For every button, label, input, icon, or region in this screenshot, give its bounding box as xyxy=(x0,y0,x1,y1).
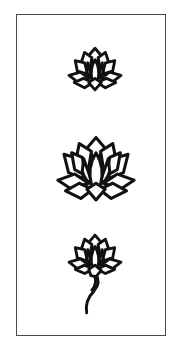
lotus-with-stem-icon xyxy=(69,233,121,315)
illustration-canvas xyxy=(0,0,179,352)
small-lotus-icon xyxy=(69,46,121,90)
large-lotus-icon xyxy=(57,136,135,200)
